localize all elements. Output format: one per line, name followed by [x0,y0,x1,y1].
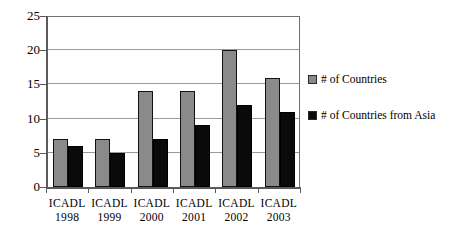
x-axis-tick-mark [173,187,174,193]
y-axis-tick-mark [40,84,46,85]
x-axis-category-label: ICADL2003 [251,196,307,224]
y-axis-tick-label: 15 [12,77,40,90]
y-axis: 0510152025 [8,0,40,239]
bar [237,105,252,187]
bar-chart: 0510152025 # of Countries# of Countries … [0,0,451,239]
x-axis-tick-mark [131,187,132,193]
legend-swatch-icon [308,111,317,120]
category-name: ICADL [176,197,213,209]
bar [180,91,195,187]
bar [265,78,280,187]
legend-entry: # of Countries [308,72,448,86]
bar [138,91,153,187]
bar [222,50,237,187]
y-axis-tick-label: 10 [12,112,40,125]
plot-area [46,16,300,188]
y-axis-tick-label: 0 [12,180,40,193]
bar-group [47,16,89,187]
bar-group [89,16,131,187]
y-axis-tick-mark [40,119,46,120]
category-year: 2003 [251,210,307,224]
x-axis-tick-mark [300,187,301,193]
category-name: ICADL [91,197,128,209]
bar-group [174,16,216,187]
legend-swatch-icon [308,75,317,84]
category-name: ICADL [261,197,298,209]
y-axis-tick-mark [40,153,46,154]
legend-label: # of Countries [321,72,387,86]
category-name: ICADL [49,197,86,209]
x-axis-tick-mark [88,187,89,193]
bar [280,112,295,187]
bar-group [216,16,258,187]
bar-group [259,16,301,187]
y-axis-tick-label: 25 [12,9,40,22]
bar [195,125,210,187]
y-axis-tick-label: 5 [12,146,40,159]
bar-group [132,16,174,187]
bar [53,139,68,187]
bar [110,153,125,187]
x-axis-tick-mark [215,187,216,193]
x-axis-tick-mark [258,187,259,193]
bar [95,139,110,187]
category-name: ICADL [134,197,171,209]
legend-entry: # of Countries from Asia [308,108,448,122]
y-axis-tick-mark [40,16,46,17]
category-name: ICADL [218,197,255,209]
chart-legend: # of Countries# of Countries from Asia [308,72,448,144]
x-axis-tick-mark [46,187,47,193]
y-axis-spine [46,16,48,189]
legend-label: # of Countries from Asia [321,108,435,122]
y-axis-tick-mark [40,50,46,51]
bar [153,139,168,187]
bar [68,146,83,187]
y-axis-tick-label: 20 [12,43,40,56]
